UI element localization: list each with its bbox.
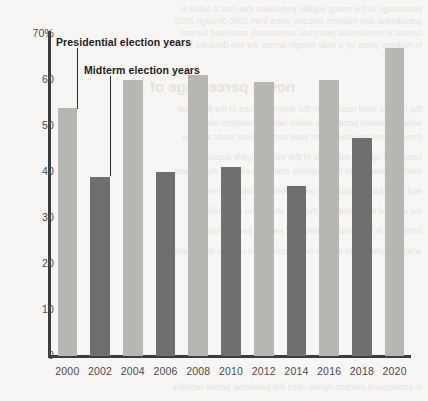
chart-figure: percentage of the voting eligible popula… bbox=[0, 0, 428, 401]
y-axis-tick-60: 60 bbox=[42, 74, 54, 85]
x-axis-tick-2008: 2008 bbox=[182, 365, 215, 377]
y-axis-tick-70: 70% bbox=[32, 28, 54, 39]
y-axis-tick-10: 10 bbox=[42, 304, 54, 315]
annotation-midterm-election-years: Midterm election years bbox=[84, 64, 200, 76]
y-axis-tick-50: 50 bbox=[42, 120, 54, 131]
annotation-leader-line-midterm bbox=[110, 76, 111, 176]
y-axis-tick-30: 30 bbox=[42, 212, 54, 223]
x-axis-tick-2018: 2018 bbox=[346, 365, 379, 377]
x-axis-tick-2020: 2020 bbox=[378, 365, 411, 377]
x-axis-tick-2000: 2000 bbox=[51, 365, 84, 377]
x-axis-tick-2010: 2010 bbox=[215, 365, 248, 377]
y-axis-tick-0: 0 bbox=[48, 350, 54, 361]
bar-2008 bbox=[188, 75, 208, 356]
plot-area: 70%6050403020100 20002002200420062008201… bbox=[0, 0, 428, 401]
bar-2004 bbox=[123, 80, 143, 356]
bar-2012 bbox=[254, 82, 274, 356]
y-axis-tick-40: 40 bbox=[42, 166, 54, 177]
bar-2002 bbox=[90, 177, 110, 356]
x-axis-tick-2004: 2004 bbox=[116, 365, 149, 377]
bar-2006 bbox=[156, 172, 176, 356]
x-axis-tick-2006: 2006 bbox=[149, 365, 182, 377]
bar-2010 bbox=[221, 167, 241, 356]
bar-2020 bbox=[385, 48, 405, 356]
x-axis-tick-2014: 2014 bbox=[280, 365, 313, 377]
x-axis-tick-2002: 2002 bbox=[84, 365, 117, 377]
y-axis-tick-20: 20 bbox=[42, 258, 54, 269]
annotation-leader-line-presidential bbox=[77, 48, 78, 109]
bar-2018 bbox=[352, 138, 372, 357]
x-axis-tick-2016: 2016 bbox=[313, 365, 346, 377]
bar-2016 bbox=[319, 80, 339, 356]
x-axis-tick-2012: 2012 bbox=[247, 365, 280, 377]
bar-2014 bbox=[287, 186, 307, 356]
annotation-presidential-election-years: Presidential election years bbox=[56, 36, 191, 48]
bar-2000 bbox=[58, 108, 78, 356]
